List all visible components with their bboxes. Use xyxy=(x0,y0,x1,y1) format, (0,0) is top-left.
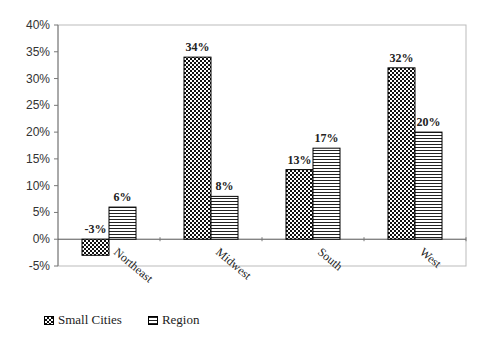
y-tick-label: -5% xyxy=(29,259,51,273)
y-tick-label: 25% xyxy=(26,98,50,112)
data-label: 34% xyxy=(186,40,210,54)
y-tick-label: 30% xyxy=(26,72,50,86)
legend-label: Small Cities xyxy=(58,312,122,328)
legend: Small Cities Region xyxy=(44,312,199,328)
checkerboard-swatch-icon xyxy=(44,316,54,325)
y-tick-label: 35% xyxy=(26,45,50,59)
data-label: -3% xyxy=(85,222,107,236)
data-label: 8% xyxy=(216,179,234,193)
legend-item-region: Region xyxy=(148,312,200,328)
y-tick-label: 5% xyxy=(33,205,51,219)
y-tick-label: 40% xyxy=(26,18,50,32)
x-tick-label: South xyxy=(315,245,345,274)
bar-chart: 40%35%30%25%20%15%10%5%0%-5% -3%6%34%8%1… xyxy=(0,0,488,300)
x-tick-label: Northeast xyxy=(111,245,156,286)
bar-small-cities-midwest xyxy=(184,57,211,239)
data-label: 32% xyxy=(390,51,414,65)
data-label: 20% xyxy=(417,115,441,129)
bar-region-midwest xyxy=(211,196,238,239)
bar-region-northeast xyxy=(109,207,136,239)
data-label: 17% xyxy=(315,131,339,145)
bar-region-west xyxy=(415,132,442,239)
y-tick-label: 10% xyxy=(26,179,50,193)
stripes-swatch-icon xyxy=(148,316,158,325)
data-label: 13% xyxy=(288,153,312,167)
y-tick-label: 0% xyxy=(33,232,51,246)
bar-small-cities-west xyxy=(388,68,415,239)
bar-region-south xyxy=(313,148,340,239)
x-tick-label: West xyxy=(417,245,445,271)
legend-item-small-cities: Small Cities xyxy=(44,312,122,328)
legend-label: Region xyxy=(162,312,200,328)
bar-small-cities-south xyxy=(286,170,313,240)
data-label: 6% xyxy=(114,190,132,204)
x-tick-label: Midwest xyxy=(213,245,255,283)
y-tick-label: 20% xyxy=(26,125,50,139)
bar-small-cities-northeast xyxy=(82,239,109,255)
y-tick-label: 15% xyxy=(26,152,50,166)
